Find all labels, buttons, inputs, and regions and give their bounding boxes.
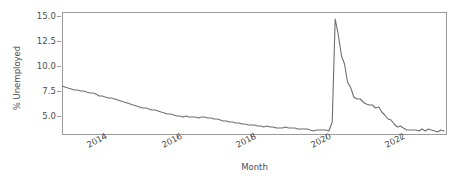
y-axis-tick-label: 10.0	[37, 61, 56, 71]
y-axis-tick-mark	[57, 16, 61, 17]
y-axis-tick-label: 7.5	[42, 86, 56, 96]
chart-figure: 5.07.510.012.515.0 % Unemployed 20142016…	[0, 0, 466, 181]
unemployment-line	[62, 19, 444, 132]
y-axis-label: % Unemployed	[12, 28, 22, 128]
y-axis-tick-mark	[57, 66, 61, 67]
y-axis-tick-mark	[57, 91, 61, 92]
y-axis-tick-label: 12.5	[37, 36, 56, 46]
y-axis-tick-labels: 5.07.510.012.515.0	[26, 0, 56, 181]
y-axis-tick-mark	[57, 41, 61, 42]
y-axis-tick-label: 5.0	[42, 111, 56, 121]
plot-area	[62, 12, 447, 135]
x-axis-label: Month	[62, 162, 447, 172]
y-axis-tick-label: 15.0	[37, 11, 56, 21]
y-axis-tick-mark	[57, 116, 61, 117]
